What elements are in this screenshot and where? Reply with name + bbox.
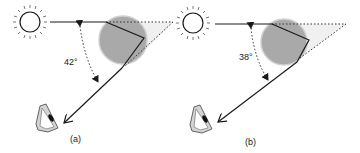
panel-caption-a: (a) bbox=[70, 134, 81, 144]
raindrop-icon bbox=[99, 16, 147, 64]
arrow-icon bbox=[64, 68, 122, 123]
rainbow-angle-diagram: 42° (a) bbox=[0, 0, 360, 153]
angle-arc bbox=[80, 26, 98, 82]
panel-a: 42° (a) bbox=[13, 5, 173, 144]
panel-caption-b: (b) bbox=[245, 137, 256, 147]
angle-label: 42° bbox=[64, 57, 78, 67]
arrow-icon bbox=[218, 62, 297, 122]
eye-icon bbox=[190, 105, 212, 133]
sun-icon bbox=[176, 6, 210, 40]
sun-icon bbox=[13, 5, 47, 39]
angle-label: 38° bbox=[239, 52, 253, 62]
eye-icon bbox=[36, 104, 58, 132]
panel-b: 38° (b) bbox=[176, 6, 346, 147]
